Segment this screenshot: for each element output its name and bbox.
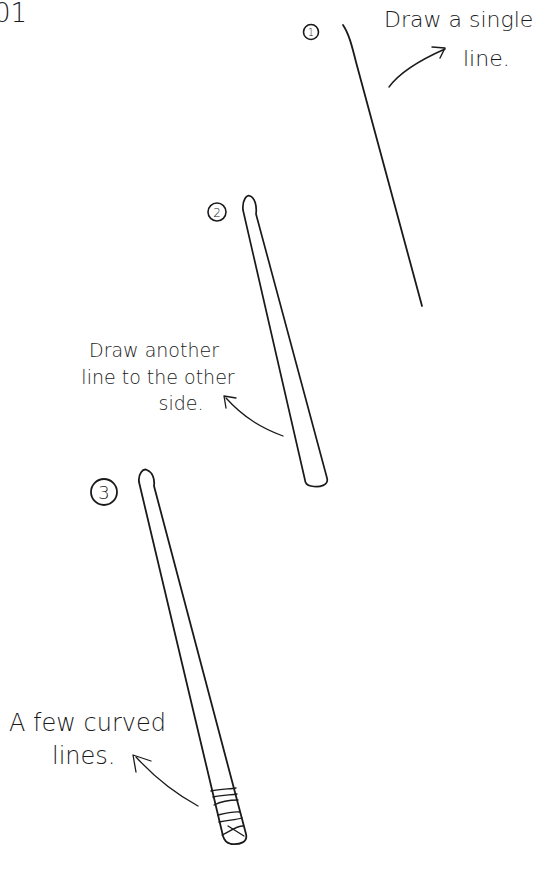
step-1-caption-line-2: line. — [463, 46, 510, 71]
step-3-arrow-icon — [136, 757, 198, 806]
step-1-arrow-icon — [389, 49, 445, 87]
stick-outline — [139, 470, 246, 845]
step-3: 3 A few curved lines. — [9, 470, 246, 845]
stick-outline — [243, 196, 327, 487]
step-2-number: 2 — [213, 206, 221, 220]
step-2-caption-line-3: side. — [159, 392, 204, 414]
step-3-caption-line-2: lines. — [52, 742, 115, 770]
step-3-caption-line-1: A few curved — [9, 709, 166, 737]
wrap-lines — [211, 788, 244, 836]
corner-fragment-text: 01 — [0, 0, 27, 28]
step-2: 2 Draw another line to the other side. — [81, 196, 327, 487]
step-1: 1 Draw a single line. — [304, 7, 534, 306]
drawing-canvas: 01 1 Draw a single line. 2 Draw another … — [0, 0, 556, 871]
step-2-caption-line-1: Draw another — [89, 339, 219, 361]
step-1-number: 1 — [308, 27, 314, 38]
step-1-caption-line-1: Draw a single — [384, 7, 533, 32]
step-2-caption-line-2: line to the other — [81, 366, 234, 388]
step-2-arrow-icon — [226, 398, 283, 436]
step-3-number: 3 — [98, 482, 109, 503]
